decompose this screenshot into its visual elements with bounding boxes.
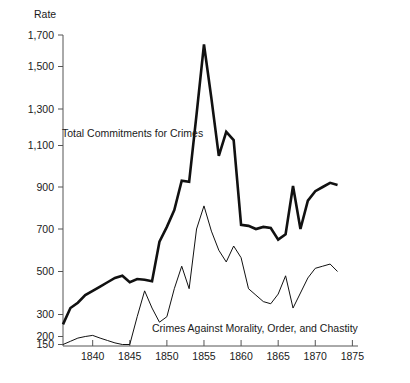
y-axis-ticks — [58, 35, 63, 345]
x-tick-label: 1855 — [192, 350, 216, 362]
x-axis-tick-labels: 18401845185018551860186518701875 — [81, 350, 364, 362]
y-axis-title: Rate — [34, 8, 56, 20]
y-tick-label: 1,700 — [28, 29, 54, 41]
y-tick-label: 1,100 — [28, 139, 54, 151]
x-tick-label: 1875 — [341, 350, 365, 362]
x-tick-label: 1860 — [229, 350, 253, 362]
x-tick-label: 1865 — [267, 350, 291, 362]
x-tick-label: 1840 — [81, 350, 105, 362]
y-tick-label: 900 — [36, 181, 54, 193]
y-tick-label: 1,500 — [28, 60, 54, 72]
y-tick-label: 300 — [36, 308, 54, 320]
y-tick-label: 200 — [36, 330, 54, 342]
y-tick-label: 700 — [36, 223, 54, 235]
y-tick-label: 1,300 — [28, 103, 54, 115]
x-tick-label: 1850 — [155, 350, 179, 362]
x-axis-ticks — [93, 340, 353, 346]
chart-svg: Rate 1502003005007009001,1001,3001,5001,… — [0, 0, 410, 383]
y-axis-tick-labels: 1502003005007009001,1001,3001,5001,700 — [28, 29, 54, 351]
y-tick-label: 500 — [36, 265, 54, 277]
crime-rate-line-chart: Rate 1502003005007009001,1001,3001,5001,… — [0, 0, 410, 383]
series-label-morality-order-chastity: Crimes Against Morality, Order, and Chas… — [152, 322, 359, 334]
series-line-total-commitments — [63, 44, 338, 324]
x-tick-label: 1870 — [304, 350, 328, 362]
series-label-total-commitments: Total Commitments for Crimes — [62, 127, 203, 139]
x-tick-label: 1845 — [118, 350, 142, 362]
